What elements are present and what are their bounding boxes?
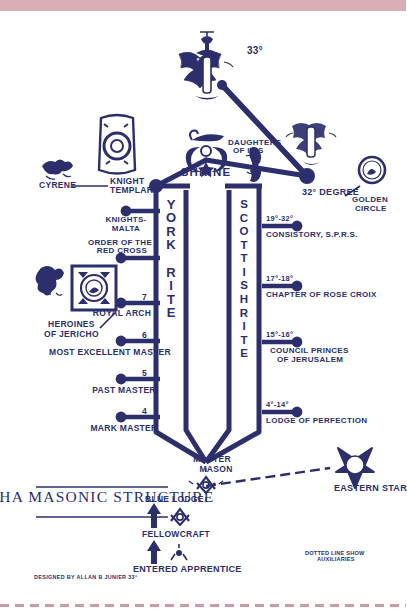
knight-templar-emblem-icon — [99, 115, 135, 174]
cyrene-emblem-icon — [42, 160, 73, 180]
york-column-outer-edge — [186, 190, 206, 462]
label-fellowcraft: FELLOWCRAFT — [142, 530, 210, 539]
arrow-to-fellowcraft — [147, 540, 161, 564]
scottish-rite-vertical-label: S C O T T I S H R I T E — [240, 198, 249, 361]
scottish-step-3-degree: 4°-14° — [266, 401, 289, 409]
scottish-column-inner-edge — [206, 190, 229, 462]
scottish-letter-6: S — [240, 279, 249, 293]
label-shrine: SHRINE — [181, 166, 232, 178]
york-step-3-label: MOST EXCELLENT MASTER — [49, 348, 171, 357]
scottish-step-2-line2: OF JERUSALEM — [277, 356, 343, 364]
page-title: PHA MASONIC STRUCTURE — [0, 489, 215, 505]
label-knight-templar-line2: TEMPLAR — [110, 186, 153, 195]
scottish-column-outer-edge — [206, 186, 259, 462]
york-letter-1: O — [166, 211, 176, 224]
scottish-letter-10: T — [240, 334, 249, 348]
label-master-mason-line2: MASON — [199, 465, 232, 474]
york-letter-3: K — [166, 238, 176, 251]
york-letter-6: T — [166, 293, 176, 306]
york-letter-0: Y — [166, 198, 176, 211]
scottish-letter-4: T — [240, 252, 249, 266]
york-step-5-degree: 4 — [142, 407, 147, 416]
node-32-degree — [299, 168, 315, 184]
york-step-0-line2: MALTA — [112, 225, 140, 233]
arrow-to-blue-lodge — [147, 503, 161, 528]
york-rite-vertical-label: Y O R K R I T E — [166, 198, 176, 319]
york-letter-7: E — [166, 306, 176, 319]
york-step-3-degree: 6 — [142, 331, 147, 340]
heroines-of-jericho-emblem-icon — [36, 266, 64, 296]
scottish-letter-8: R — [240, 307, 249, 321]
york-letter-5: I — [166, 279, 176, 292]
scottish-letter-1: C — [240, 212, 249, 226]
york-step-1-line2: RED CROSS — [97, 247, 147, 255]
label-entered-apprentice: ENTERED APPRENTICE — [133, 565, 242, 574]
label-eastern-star: EASTERN STAR — [334, 484, 407, 493]
scottish-letter-0: S — [240, 198, 249, 212]
label-golden-circle-line2: CIRCLE — [355, 205, 387, 213]
label-daughters-of-isis-line2: OF ISIS — [233, 147, 264, 155]
york-letter-4: R — [166, 266, 176, 279]
designer-credit: DESIGNED BY ALLAN B JUNIER 33° — [34, 575, 137, 581]
scottish-step-2-degree: 15°-16° — [266, 331, 293, 339]
label-33-degree: 33° — [247, 46, 263, 57]
scottish-step-1-label: CHAPTER OF ROSE CROIX — [266, 291, 377, 299]
node-33-degree — [217, 80, 227, 90]
scottish-step-1-degree: 17°-18° — [266, 275, 293, 283]
blue-lodge-icon — [171, 509, 189, 525]
label-master-mason-line1: MASTER — [193, 455, 231, 464]
label-cyrene: CYRENE — [39, 181, 76, 190]
scottish-letter-3: T — [240, 239, 249, 253]
scottish-letter-5: I — [240, 266, 249, 280]
york-step-2-degree: 7 — [142, 293, 147, 302]
york-letter-2: R — [166, 225, 176, 238]
label-heroines-line1: HEROINES — [48, 320, 95, 329]
scottish-letter-9: I — [240, 320, 249, 334]
scottish-step-0-label: CONSISTORY, S.P.R.S. — [266, 231, 358, 239]
york-step-2-label: ROYAL ARCH — [93, 309, 151, 318]
scottish-letter-2: O — [240, 225, 249, 239]
york-column-inner-edge — [156, 186, 206, 462]
label-32-degree: 32° DEGREE — [302, 188, 359, 197]
eastern-star-emblem-icon — [336, 448, 374, 488]
fellowcraft-icon — [171, 544, 187, 560]
scottish-step-3-label: LODGE OF PERFECTION — [266, 417, 367, 425]
scottish-letter-7: H — [240, 293, 249, 307]
legend-line2: AUXILIARIES — [317, 557, 355, 563]
york-step-4-degree: 5 — [142, 369, 147, 378]
scottish-letter-11: E — [240, 347, 249, 361]
york-step-4-label: PAST MASTER — [92, 386, 156, 395]
royal-arch-emblem-icon — [72, 266, 116, 310]
york-step-5-label: MARK MASTER — [90, 424, 157, 433]
scottish-step-0-degree: 19°-32° — [266, 215, 293, 223]
label-heroines-line2: OF JERICHO — [44, 330, 99, 339]
golden-circle-emblem-icon — [359, 157, 385, 183]
